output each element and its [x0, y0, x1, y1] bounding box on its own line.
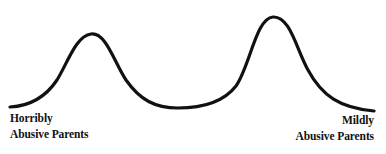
left-extreme-label: Horribly Abusive Parents — [10, 110, 88, 142]
distribution-curve — [10, 17, 374, 111]
right-extreme-label: Mildly Abusive Parents — [296, 112, 374, 144]
left-label-line2: Abusive Parents — [10, 126, 88, 142]
right-label-line2: Abusive Parents — [296, 128, 374, 144]
right-label-line1: Mildly — [296, 112, 374, 128]
left-label-line1: Horribly — [10, 110, 88, 126]
